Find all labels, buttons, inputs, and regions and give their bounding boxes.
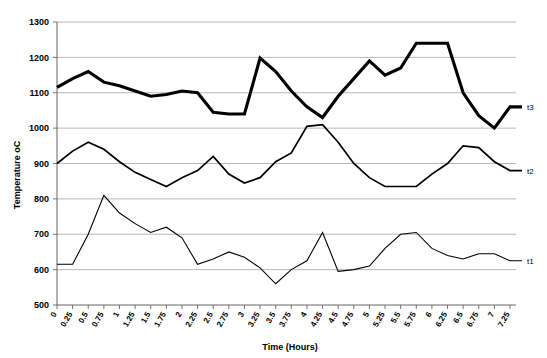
y-tick-label: 500	[34, 300, 49, 310]
x-tick-label: 7	[486, 310, 496, 319]
x-tick-label: 4.25	[309, 310, 325, 328]
chart-canvas: 5006007008009001000110012001300 00.250.5…	[0, 0, 547, 358]
x-tick-label: 5.75	[402, 310, 418, 328]
x-tick-label: 2.5	[202, 310, 216, 325]
x-tick-label: 7.25	[496, 310, 512, 328]
series-label-t3: t3	[527, 103, 534, 112]
x-tick-label: 2.75	[215, 310, 231, 328]
x-tick-label: 3.5	[264, 310, 278, 325]
x-axis-ticks-group: 00.250.50.7511.251.51.7522.252.52.7533.2…	[49, 305, 512, 328]
y-tick-label: 1300	[29, 17, 49, 27]
series-labels-group: t3t2t1	[527, 103, 534, 266]
x-tick-label: 3.75	[277, 310, 293, 328]
y-tick-label: 700	[34, 229, 49, 239]
y-axis-ticks-group: 5006007008009001000110012001300	[29, 17, 57, 310]
y-tick-label: 1100	[29, 88, 49, 98]
series-line-t1	[57, 195, 522, 283]
y-tick-label: 1000	[29, 123, 49, 133]
x-tick-label: 1.5	[139, 310, 153, 325]
x-tick-label: 6	[424, 310, 434, 319]
x-tick-label: 2.25	[184, 310, 200, 328]
y-tick-label: 900	[34, 159, 49, 169]
series-label-t2: t2	[527, 167, 534, 176]
x-tick-label: 0.75	[90, 310, 106, 328]
x-tick-label: 6.75	[465, 310, 481, 328]
x-tick-label: 5.25	[371, 310, 387, 328]
y-axis-title: Temperature oC	[12, 140, 22, 209]
x-axis-title: Time (Hours)	[262, 342, 317, 352]
x-tick-label: 0	[49, 310, 59, 319]
x-tick-label: 1	[111, 310, 121, 319]
x-tick-label: 5.5	[389, 310, 403, 325]
x-tick-label: 1.25	[121, 310, 137, 328]
y-tick-label: 600	[34, 265, 49, 275]
x-tick-label: 3.25	[246, 310, 262, 328]
x-tick-label: 3	[236, 310, 246, 319]
x-tick-label: 0.25	[59, 310, 75, 328]
line-chart-figure: 5006007008009001000110012001300 00.250.5…	[0, 0, 547, 358]
x-tick-label: 0.5	[77, 310, 91, 325]
gridlines-group	[57, 22, 516, 270]
y-tick-label: 800	[34, 194, 49, 204]
x-tick-label: 4	[299, 310, 309, 319]
x-tick-label: 6.25	[434, 310, 450, 328]
x-tick-label: 6.5	[452, 310, 466, 325]
series-line-t3	[57, 43, 522, 128]
series-line-t2	[57, 125, 522, 187]
x-tick-label: 2	[174, 310, 184, 319]
x-tick-label: 4.5	[327, 310, 341, 325]
y-tick-label: 1200	[29, 53, 49, 63]
x-tick-label: 4.75	[340, 310, 356, 328]
series-label-t1: t1	[527, 257, 534, 266]
x-tick-label: 1.75	[152, 310, 168, 328]
x-tick-label: 5	[361, 310, 371, 319]
